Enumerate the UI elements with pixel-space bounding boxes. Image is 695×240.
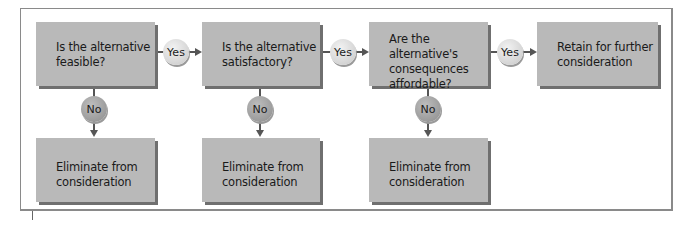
yes-circle-2: Yes bbox=[330, 39, 356, 65]
arrow-down-icon bbox=[256, 130, 264, 137]
yes-circle-1: Yes bbox=[163, 39, 189, 65]
decision-box-affordable: Are the alternative's consequences affor… bbox=[369, 22, 488, 86]
eliminate-box-2: Eliminate from consideration bbox=[202, 138, 320, 202]
decision-box-feasible: Is the alternative feasible? bbox=[36, 22, 155, 86]
arrow-down-icon bbox=[90, 130, 98, 137]
arrow-right-icon bbox=[195, 48, 202, 56]
eliminate-label: Eliminate from consideration bbox=[222, 160, 320, 190]
eliminate-box-3: Eliminate from consideration bbox=[369, 138, 488, 202]
decision-label: Is the alternative satisfactory? bbox=[222, 40, 320, 70]
no-circle-1: No bbox=[81, 96, 107, 122]
decision-box-satisfactory: Is the alternative satisfactory? bbox=[202, 22, 320, 86]
outcome-box-retain: Retain for further consideration bbox=[537, 22, 658, 86]
eliminate-label: Eliminate from consideration bbox=[56, 160, 155, 190]
no-circle-3: No bbox=[415, 96, 441, 122]
decision-label: Is the alternative feasible? bbox=[56, 40, 155, 70]
yes-circle-3: Yes bbox=[497, 39, 523, 65]
arrow-down-icon bbox=[424, 130, 432, 137]
eliminate-box-1: Eliminate from consideration bbox=[36, 138, 155, 202]
decision-label: Are the alternative's consequences affor… bbox=[389, 32, 488, 92]
arrow-right-icon bbox=[362, 48, 369, 56]
frame-tick-mark bbox=[32, 211, 33, 220]
eliminate-label: Eliminate from consideration bbox=[389, 160, 488, 190]
outcome-label: Retain for further consideration bbox=[557, 40, 658, 70]
arrow-right-icon bbox=[530, 48, 537, 56]
no-circle-2: No bbox=[247, 96, 273, 122]
